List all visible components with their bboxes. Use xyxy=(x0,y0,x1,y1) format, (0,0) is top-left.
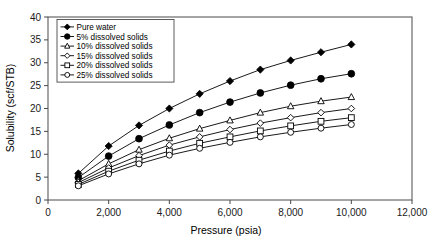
x-tick-label: 4,000 xyxy=(157,207,182,218)
marker-open-circle xyxy=(318,125,324,131)
y-tick-label: 40 xyxy=(30,12,42,23)
marker-filled-circle xyxy=(257,90,264,97)
x-tick-label: 2,000 xyxy=(96,207,121,218)
chart-legend: Pure water5% dissolved solids10% dissolv… xyxy=(57,20,174,83)
legend-item-label: 10% dissolved solids xyxy=(77,42,153,51)
marker-open-circle xyxy=(257,134,263,140)
marker-open-circle xyxy=(106,171,112,177)
y-tick-label: 35 xyxy=(30,34,42,45)
chart-figure: 02,0004,0006,0008,00010,00012,000 051015… xyxy=(0,0,439,242)
y-tick-label: 5 xyxy=(35,172,41,183)
marker-open-square xyxy=(348,115,354,121)
marker-open-square xyxy=(257,128,263,134)
y-tick-label: 10 xyxy=(30,149,42,160)
y-axis-title: Solubility (scf/STB) xyxy=(4,64,16,153)
marker-filled-circle xyxy=(105,153,112,160)
marker-open-circle xyxy=(166,152,172,158)
marker-open-square xyxy=(227,134,233,140)
x-tick-label: 10,000 xyxy=(336,207,367,218)
marker-filled-circle xyxy=(287,82,294,89)
marker-filled-circle xyxy=(227,99,234,106)
legend-item-label: 5% dissolved solids xyxy=(77,33,148,42)
marker-filled-circle xyxy=(318,75,325,82)
solubility-vs-pressure-chart: 02,0004,0006,0008,00010,00012,000 051015… xyxy=(0,0,439,242)
legend-item-label: Pure water xyxy=(77,23,117,32)
y-tick-label: 20 xyxy=(30,103,42,114)
y-tick-label: 0 xyxy=(35,195,41,206)
y-tick-label: 30 xyxy=(30,57,42,68)
marker-open-square xyxy=(288,123,294,129)
y-tick-label: 25 xyxy=(30,80,42,91)
x-tick-label: 6,000 xyxy=(217,207,242,218)
marker-filled-circle xyxy=(64,34,70,40)
marker-filled-circle xyxy=(196,109,203,116)
marker-open-circle xyxy=(197,145,203,151)
x-tick-label: 8,000 xyxy=(278,207,303,218)
x-axis-title: Pressure (psia) xyxy=(190,224,261,236)
legend-item-label: 25% dissolved solids xyxy=(77,71,153,80)
x-tick-label: 0 xyxy=(45,207,51,218)
marker-filled-circle xyxy=(348,70,355,77)
marker-open-square xyxy=(318,118,324,124)
marker-filled-circle xyxy=(136,135,143,142)
y-tick-label: 15 xyxy=(30,126,42,137)
marker-open-circle xyxy=(136,161,142,167)
marker-open-square xyxy=(65,63,70,68)
marker-open-circle xyxy=(65,72,70,77)
legend-item-label: 15% dissolved solids xyxy=(77,52,153,61)
x-tick-label: 12,000 xyxy=(397,207,428,218)
marker-open-circle xyxy=(288,129,294,135)
marker-open-circle xyxy=(75,183,81,189)
legend-item-label: 20% dissolved solids xyxy=(77,61,153,70)
marker-open-circle xyxy=(348,122,354,128)
marker-open-circle xyxy=(227,139,233,145)
marker-filled-circle xyxy=(166,122,173,129)
